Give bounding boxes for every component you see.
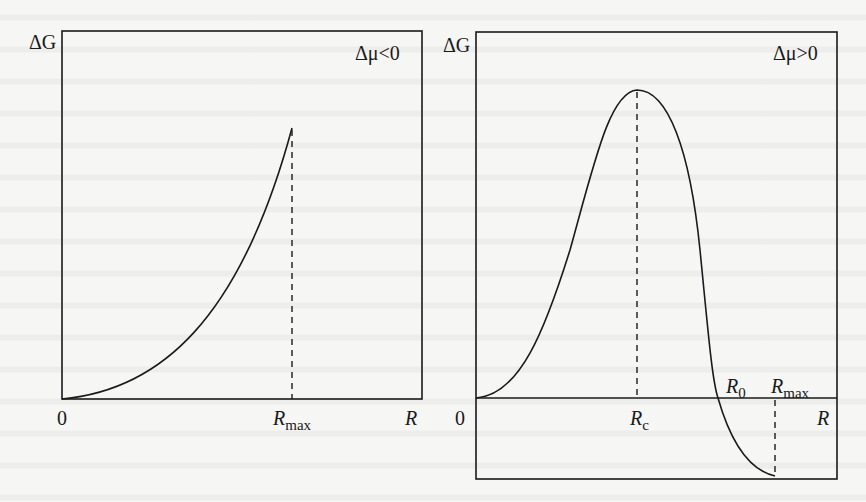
right-panel-x-axis-label: R <box>817 408 829 428</box>
left-panel-curve <box>62 128 292 399</box>
left-panel-frame <box>62 31 422 399</box>
left-panel-origin-label: 0 <box>57 408 67 428</box>
figure-canvas <box>0 0 866 502</box>
right-panel-plot <box>476 32 837 479</box>
right-panel-y-axis-label: ΔG <box>443 35 470 55</box>
right-panel-rc-label: Rc <box>630 408 649 428</box>
left-panel-condition-label: Δμ<0 <box>355 43 400 63</box>
left-panel-y-axis-label: ΔG <box>29 32 56 52</box>
left-panel-rmax-label: Rmax <box>273 408 311 428</box>
left-panel-plot <box>62 31 422 399</box>
right-panel-r0-label: R0 <box>726 376 746 396</box>
right-panel-curve <box>476 90 775 476</box>
right-panel-rmax-label: Rmax <box>771 376 809 396</box>
right-panel-origin-label: 0 <box>455 408 465 428</box>
right-panel-condition-label: Δμ>0 <box>773 43 818 63</box>
left-panel-x-axis-label: R <box>405 408 417 428</box>
